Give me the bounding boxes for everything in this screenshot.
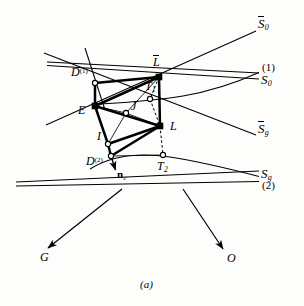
label-D2-base: D <box>86 154 95 168</box>
vertex-marker-I <box>105 141 110 146</box>
label-s0-base: S <box>261 72 268 87</box>
vertex-marker-D2 <box>108 153 113 158</box>
line-sg-upper <box>16 171 259 182</box>
label-branch-2: (2) <box>262 180 275 191</box>
arrow-to-O <box>183 189 223 249</box>
label-sg-bar-sub: g <box>265 128 269 137</box>
dashed-L-T2 <box>160 126 163 155</box>
line-sg-lower <box>16 182 259 187</box>
label-T2-sub: 2 <box>164 165 168 174</box>
label-s0-bar-base: S <box>258 17 265 30</box>
label-sg-bar: Sg <box>258 122 269 137</box>
vertex-marker-T1 <box>147 96 152 101</box>
vertex-marker-Lbar <box>156 74 163 81</box>
label-O: O <box>227 252 236 264</box>
label-J: J <box>131 100 136 112</box>
label-T1: T1 <box>145 80 156 94</box>
label-D1-sup: (1) <box>80 67 88 75</box>
label-D2: D(2) <box>86 155 103 167</box>
vertex-marker-D1 <box>92 80 97 85</box>
label-sg-bar-base: S <box>258 122 265 135</box>
label-T2: T2 <box>157 160 168 174</box>
label-T1-base: T <box>145 79 152 93</box>
label-L-bar-base: L <box>153 56 160 68</box>
label-s0-bar-sub: 0 <box>265 23 269 32</box>
vertex-marker-J <box>123 110 128 115</box>
label-T2-base: T <box>157 159 164 173</box>
edge-Lbar-L <box>159 77 160 126</box>
figure-caption: (a) <box>140 278 153 290</box>
arrow-group <box>48 156 223 249</box>
label-s0-sub: 0 <box>268 79 272 88</box>
label-L: L <box>170 120 177 132</box>
curve-sg-branch-2 <box>90 155 259 177</box>
vertex-marker-L <box>157 123 164 130</box>
label-T1-sub: 1 <box>152 85 156 94</box>
label-nc: nc <box>117 169 126 182</box>
label-E: E <box>78 104 85 116</box>
label-I: I <box>97 130 101 142</box>
label-D1-base: D <box>71 65 80 79</box>
label-nc-sub: c <box>123 174 126 181</box>
label-L-bar: L <box>153 56 160 68</box>
edge-E-L <box>95 106 160 126</box>
label-s0: S0 <box>261 73 272 88</box>
label-D1: D(1) <box>71 66 88 78</box>
label-D2-sup: (2) <box>95 156 103 164</box>
figure-panel: S0 (1) S0 Sg Sg (2) D(1) E I D(2) J L T1… <box>0 0 304 306</box>
vertex-marker-E <box>92 103 99 110</box>
vertex-marker-T2 <box>160 152 165 157</box>
characteristic-line-group <box>16 31 259 186</box>
label-s0-bar: S0 <box>258 17 269 32</box>
label-G: G <box>40 251 49 263</box>
arrow-to-G <box>48 189 122 248</box>
